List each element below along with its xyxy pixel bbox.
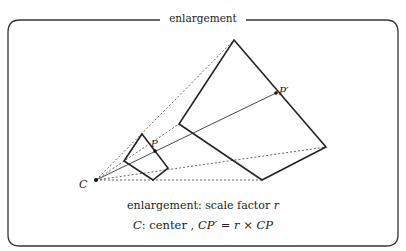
- enlargement-diagram: C P P′: [0, 0, 406, 251]
- caption-line-2: C: center , CP′ = r × CP: [0, 218, 406, 232]
- caption-var-cp: CP: [256, 218, 273, 232]
- ray-cp-prime: [96, 93, 276, 180]
- label-c: C: [79, 178, 88, 191]
- point-p: [153, 149, 157, 153]
- label-p-prime: P′: [278, 85, 289, 97]
- point-p-prime: [274, 91, 278, 95]
- caption-var-cp-prime: CP′: [198, 218, 217, 232]
- label-p: P: [150, 138, 158, 149]
- caption-times: ×: [240, 218, 257, 232]
- caption-equals: =: [217, 218, 234, 232]
- enlarged-quadrilateral: [179, 40, 326, 180]
- frame-title-text: enlargement: [165, 12, 241, 24]
- caption-text: : center ,: [142, 218, 198, 232]
- caption-line-1: enlargement: scale factor r: [0, 199, 406, 212]
- caption-var-r: r: [274, 199, 279, 212]
- caption-var-c: C: [133, 218, 142, 232]
- frame-title: enlargement: [0, 12, 406, 24]
- frame-border: [8, 20, 398, 246]
- caption-text: enlargement: scale factor: [127, 199, 274, 212]
- center-point: [94, 178, 98, 182]
- projection-rays: [96, 40, 326, 180]
